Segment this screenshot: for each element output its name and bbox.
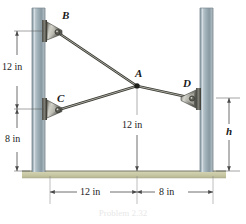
ground — [22, 171, 226, 178]
dimension-label-left-lower: 8 in — [5, 134, 20, 144]
point-label-d: D — [183, 78, 191, 89]
dimension-label-bottom-left: 12 in — [80, 187, 100, 197]
bracket-d — [181, 88, 201, 110]
cables — [57, 32, 192, 110]
figure-container: B C A D 12 in 8 in 12 in 12 in 8 in h Pr… — [0, 0, 246, 224]
dimension-label-left-upper: 12 in — [2, 62, 22, 72]
point-label-b: B — [62, 10, 69, 21]
point-label-c: C — [57, 93, 64, 104]
right-pole — [200, 8, 213, 172]
figure-caption: Problem 2.32 — [0, 208, 246, 218]
diagram-svg — [0, 0, 246, 224]
bottom-dimension-lines — [50, 176, 213, 204]
joint-a — [134, 83, 139, 88]
dimension-label-right-height: h — [226, 126, 232, 137]
point-label-a: A — [135, 68, 142, 79]
dimension-label-center-vertical: 12 in — [122, 120, 142, 130]
dimension-label-bottom-right: 8 in — [159, 187, 174, 197]
bracket-b — [42, 20, 62, 42]
